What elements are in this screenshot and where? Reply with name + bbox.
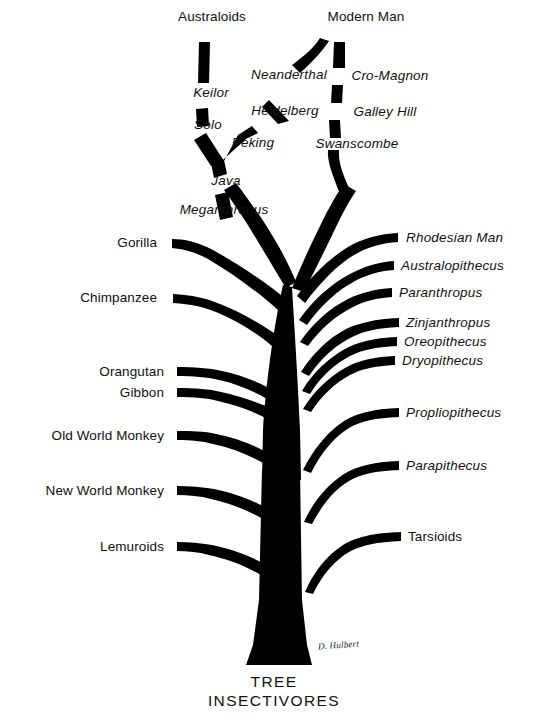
label-peking: Peking: [232, 136, 274, 150]
label-solo: Solo: [194, 118, 222, 132]
label-australopithecus: Australopithecus: [401, 259, 504, 273]
branch-parapithecus: [304, 461, 399, 524]
label-orangutan: Orangutan: [99, 365, 164, 379]
trunk-main: [262, 285, 301, 480]
label-neanderthal: Neanderthal: [251, 68, 327, 82]
label-modern-man: Modern Man: [328, 10, 405, 24]
stem-cro-magnon: [331, 85, 343, 103]
label-rhodesian-man: Rhodesian Man: [406, 231, 503, 245]
branch-lemuroids: [177, 542, 268, 575]
label-tarsioids: Tarsioids: [408, 530, 462, 544]
branch-new-world-monkey: [177, 486, 270, 519]
label-old-world-monkey: Old World Monkey: [52, 429, 164, 443]
fork-arm-solo: [194, 133, 224, 166]
stem-swanscombe-sweep: [328, 150, 352, 196]
label-dryopithecus: Dryopithecus: [402, 354, 483, 368]
label-cro-magnon: Cro-Magnon: [351, 69, 428, 83]
stem-keilor-australoids: [198, 42, 210, 83]
branch-chimpanzee: [173, 294, 284, 351]
label-heidelberg: Heidelberg: [251, 104, 318, 118]
label-java: Java: [211, 174, 240, 188]
label-new-world-monkey: New World Monkey: [46, 484, 164, 498]
label-galley-hill: Galley Hill: [354, 105, 417, 119]
label-zinjanthropus: Zinjanthropus: [406, 316, 490, 330]
label-meganthropus: Meganthropus: [180, 203, 269, 217]
branch-old-world-monkey: [177, 431, 272, 464]
label-australoids: Australoids: [178, 10, 246, 24]
label-gibbon: Gibbon: [120, 386, 164, 400]
label-gorilla: Gorilla: [117, 236, 157, 250]
label-chimpanzee: Chimpanzee: [80, 291, 157, 305]
label-oreopithecus: Oreopithecus: [404, 335, 487, 349]
label-swanscombe: Swanscombe: [315, 137, 398, 151]
root-caption-line-2: INSECTIVORES: [0, 691, 548, 710]
label-lemuroids: Lemuroids: [100, 540, 164, 554]
branch-tarsioids: [305, 532, 401, 594]
label-propliopithecus: Propliopithecus: [406, 406, 501, 420]
root-caption-line-1: TREE: [0, 672, 548, 691]
label-parapithecus: Parapithecus: [406, 459, 487, 473]
stem-cromagnon-modernman: [333, 42, 345, 68]
evolutionary-tree-figure: Australoids Keilor Solo Peking Java Mega…: [0, 0, 548, 728]
label-paranthropus: Paranthropus: [399, 286, 482, 300]
label-keilor: Keilor: [193, 86, 229, 100]
root-caption: TREE INSECTIVORES: [0, 672, 548, 710]
